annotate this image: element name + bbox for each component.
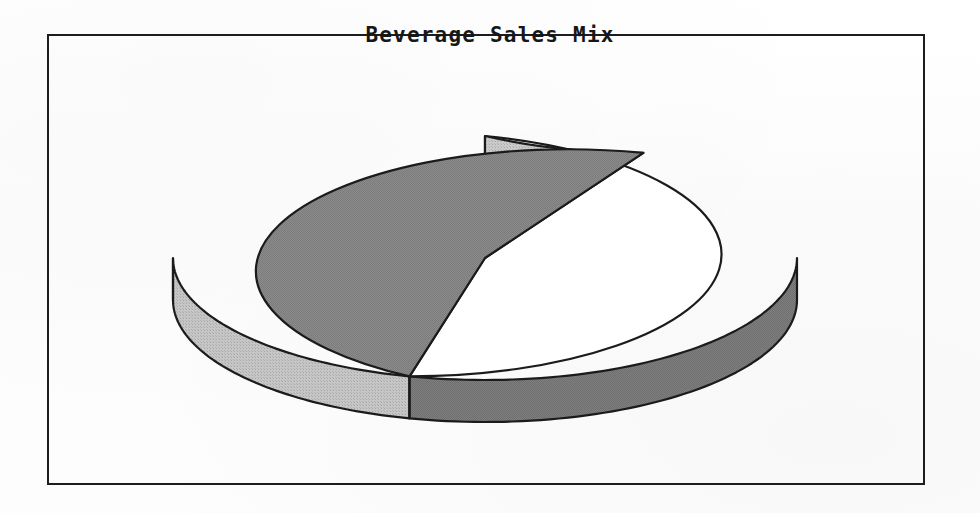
scanned-page: Beverage Sales Mix [0, 0, 980, 513]
chart-frame-border [47, 34, 925, 485]
chart-title: Beverage Sales Mix [0, 23, 980, 47]
